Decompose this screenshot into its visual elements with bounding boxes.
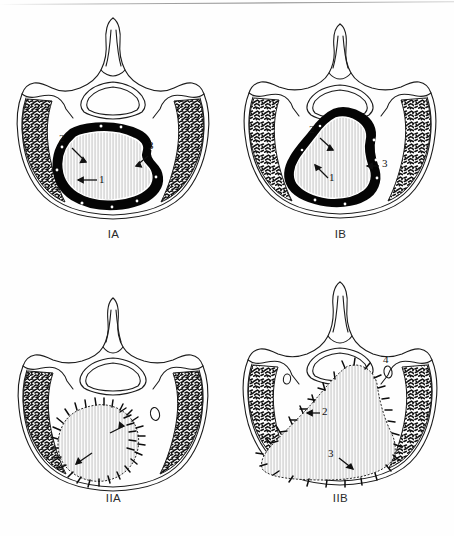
callout-IIB-4: 4 [383, 354, 389, 365]
callout-IB-1: 1 [329, 172, 335, 183]
callout-IIB-2: 2 [322, 406, 328, 417]
callout-IA-2: 2 [59, 133, 65, 144]
cancellous-bone-right-IA [161, 99, 204, 202]
figure-sheet: 2 3 1 IA [0, 0, 454, 536]
callout-IB-3: 3 [382, 158, 388, 169]
panel-caption-IIB: IIB [227, 492, 454, 504]
panel-IIA-drawing [0, 268, 227, 508]
cancellous-bone-right-IB [388, 98, 431, 201]
cancellous-bone-right-IIA [160, 371, 203, 474]
panel-caption-IB: IB [227, 228, 454, 240]
panel-IB-drawing [227, 0, 454, 240]
callout-IB-2: 2 [309, 124, 315, 135]
lesion-body-IB [295, 117, 371, 198]
panel-IB: 2 1 3 IB [227, 0, 454, 268]
panel-IA-drawing [0, 0, 227, 240]
callout-IIB-3: 3 [328, 448, 334, 459]
panel-caption-IA: IA [0, 228, 227, 240]
panel-caption-IIA: IIA [0, 492, 227, 504]
neural-foramen-oval-IIA [149, 407, 161, 422]
panel-IIB-drawing [227, 268, 454, 508]
panel-IIB: 2 3 4 IIB [227, 268, 454, 536]
panel-IIA: 3 2 4 IIA [0, 268, 227, 536]
lesion-body-IIB [261, 365, 395, 480]
cancellous-bone-left-IIA [23, 371, 66, 474]
neural-foramen-oval-left-IIB [283, 374, 292, 385]
panel-IA: 2 3 1 IA [0, 0, 227, 268]
panel-grid: 2 3 1 IA [0, 0, 454, 536]
cancellous-bone-left-IB [249, 98, 292, 201]
callout-IA-3: 3 [148, 140, 154, 151]
callout-IA-1: 1 [99, 174, 105, 185]
